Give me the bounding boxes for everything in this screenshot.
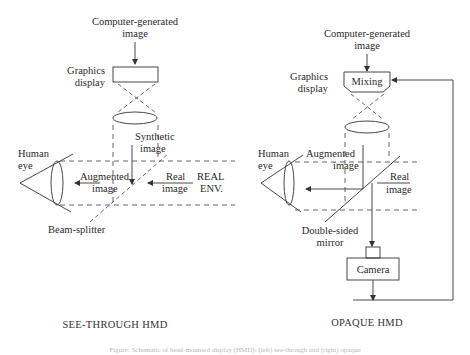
input-label: Computer-generated [92,16,179,27]
eye-cone [20,183,71,212]
real-label-2: image [162,183,188,194]
input-label-2: image [354,40,380,51]
env-label-2: ENV. [200,183,223,194]
see-through-title: SEE-THROUGH HMD [62,319,167,330]
mixing-label: Mixing [352,76,384,87]
input-label-2: image [122,28,148,39]
camera-label: Camera [357,264,390,275]
augmented-label-2: image [92,183,118,194]
mirror-label: Double-sided [302,225,359,236]
eye-cone [261,183,301,212]
mirror-label-2: mirror [317,237,344,248]
real-label: Real [166,171,185,182]
figure-caption: Figure: Schematic of head-mounted displa… [109,346,360,354]
display-label-2: display [298,83,329,94]
display-label-2: display [75,77,106,88]
augmented-label: Augmented [80,171,130,182]
beam-splitter-label: Beam-splitter [48,224,106,235]
ray [118,84,155,112]
augmented-label-2: image [333,160,359,171]
eye-lens [284,161,294,205]
lens [345,121,389,133]
env-label: REAL [197,171,224,182]
graphics-display-box [113,67,158,82]
lens [113,112,157,124]
augmented-label: Augmented [306,148,356,159]
opaque-title: OPAQUE HMD [331,317,403,328]
synthetic-label-2: image [140,143,166,154]
synthetic-label: Synthetic [135,131,175,142]
real-label: Real [390,171,409,182]
input-label: Computer-generated [324,28,411,39]
real-label-2: image [386,184,412,195]
display-label: Graphics [67,65,105,76]
eye-lens [51,161,63,205]
eye-label: Human [18,148,50,159]
eye-label-2: eye [18,160,33,171]
see-through-hmd: Computer-generated image Graphics displa… [18,16,235,330]
eye-label-2: eye [258,160,273,171]
display-label: Graphics [290,71,328,82]
hmd-diagram: Computer-generated image Graphics displa… [0,0,470,355]
eye-label: Human [258,148,290,159]
camera-lens [366,247,380,258]
opaque-hmd: Computer-generated image Graphics displa… [258,28,453,328]
